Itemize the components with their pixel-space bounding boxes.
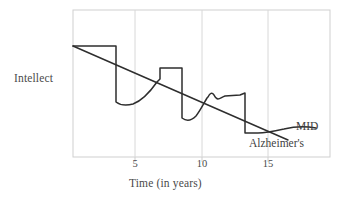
series-line-alzheimers: [73, 46, 288, 140]
chart-figure: Intellect Time (in years) 5 10 15 MID Al…: [0, 0, 344, 199]
x-tick-label-15: 15: [258, 158, 278, 169]
y-axis-title: Intellect: [14, 72, 53, 84]
x-tick-label-5: 5: [125, 158, 145, 169]
series-line-mid: [73, 46, 316, 133]
x-axis-title: Time (in years): [129, 177, 202, 189]
chart-plot-area: [0, 0, 344, 199]
series-label-alzheimers: Alzheimer's: [249, 137, 304, 149]
x-tick-label-10: 10: [192, 158, 212, 169]
series-label-mid: MID: [296, 120, 318, 132]
